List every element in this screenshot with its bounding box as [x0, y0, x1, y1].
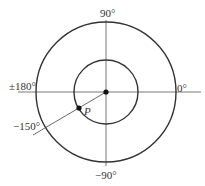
label-90: 90° — [100, 8, 115, 19]
center-point — [103, 89, 108, 94]
label-minus-90: −90° — [95, 170, 117, 181]
ray-minus-150 — [33, 92, 106, 135]
polar-diagram — [0, 0, 205, 186]
point-p — [76, 105, 81, 110]
label-p: P — [84, 106, 91, 117]
label-0: 0° — [177, 83, 187, 94]
label-180: ±180° — [9, 81, 36, 92]
label-minus-150: −150° — [13, 121, 40, 132]
